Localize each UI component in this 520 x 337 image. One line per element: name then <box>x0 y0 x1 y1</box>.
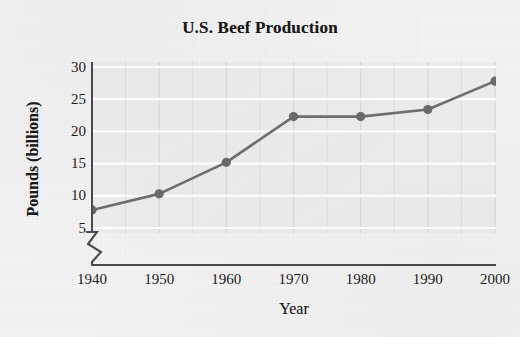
y-tick-label: 20 <box>52 124 86 139</box>
data-point <box>490 77 496 86</box>
line-chart-svg <box>92 62 496 233</box>
y-axis-title: Pounds (billions) <box>24 64 42 254</box>
y-tick-label: 25 <box>52 92 86 107</box>
data-point <box>222 158 231 167</box>
y-tick-label: 5 <box>52 221 86 236</box>
x-axis-title: Year <box>92 300 496 318</box>
x-tick-label: 2000 <box>465 272 520 287</box>
y-axis-break-icon <box>84 230 106 266</box>
y-tick-label: 30 <box>52 60 86 75</box>
y-tick-label: 10 <box>52 188 86 203</box>
y-axis-line <box>91 62 93 233</box>
plot-area <box>92 62 496 233</box>
x-tick-label: 1940 <box>62 272 122 287</box>
y-tick-label: 15 <box>52 156 86 171</box>
x-tick-label: 1990 <box>398 272 458 287</box>
vertical-major-gridlines <box>92 62 495 233</box>
data-point <box>155 189 164 198</box>
data-point <box>356 112 365 121</box>
x-axis-tick-labels: 1940195019601970198019902000 <box>0 272 520 294</box>
data-point <box>423 105 432 114</box>
x-axis-line <box>91 264 496 266</box>
x-tick-label: 1960 <box>196 272 256 287</box>
x-tick-label: 1970 <box>264 272 324 287</box>
x-tick-label: 1980 <box>331 272 391 287</box>
chart-page: U.S. Beef Production Pounds (billions) 3… <box>0 0 520 337</box>
data-point <box>289 112 298 121</box>
x-tick-label: 1950 <box>129 272 189 287</box>
